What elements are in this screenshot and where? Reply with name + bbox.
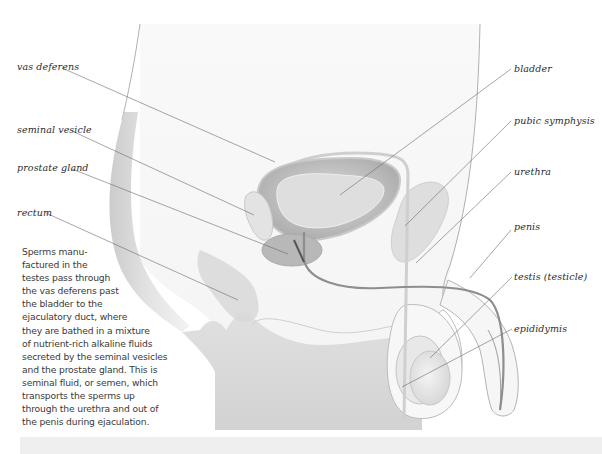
anatomy-diagram: vas deferens seminal vesicle prostate gl… — [0, 0, 602, 454]
caption-line: through the urethra and out of — [22, 402, 172, 415]
label-epididymis: epididymis — [514, 324, 567, 334]
caption-line: they are bathed in a mixture — [22, 324, 172, 337]
caption-line: the bladder to the — [22, 297, 172, 310]
leader-penis — [470, 230, 511, 278]
caption-line: transports the sperms up — [22, 389, 172, 402]
testis-shape — [410, 351, 450, 405]
caption-line: Sperms manu- — [22, 245, 172, 258]
label-urethra: urethra — [514, 167, 551, 177]
back-outline — [122, 24, 140, 120]
label-rectum: rectum — [17, 208, 52, 218]
caption-line: ejaculatory duct, where — [22, 310, 172, 323]
label-testis: testis (testicle) — [514, 272, 587, 282]
caption-line: the penis during ejaculation. — [22, 415, 172, 428]
label-bladder: bladder — [514, 64, 552, 74]
caption-line: the vas deferens past — [22, 284, 172, 297]
footer-band — [20, 437, 602, 454]
caption-text: Sperms manu- factured in the testes pass… — [22, 245, 172, 428]
caption-line: factured in the — [22, 258, 172, 271]
label-seminal-vesicle: seminal vesicle — [17, 125, 92, 135]
caption-line: secreted by the seminal vesicles — [22, 350, 172, 363]
label-vas-deferens: vas deferens — [17, 62, 79, 72]
label-pubic-symphysis: pubic symphysis — [514, 116, 595, 126]
caption-line: of nutrient-rich alkaline fluids — [22, 337, 172, 350]
caption-line: and the prostate gland. This is — [22, 363, 172, 376]
label-prostate-gland: prostate gland — [17, 163, 89, 173]
label-penis: penis — [514, 222, 540, 232]
prostate-shape — [262, 234, 322, 266]
caption-line: testes pass through — [22, 271, 172, 284]
caption-line: seminal fluid, or semen, which — [22, 376, 172, 389]
